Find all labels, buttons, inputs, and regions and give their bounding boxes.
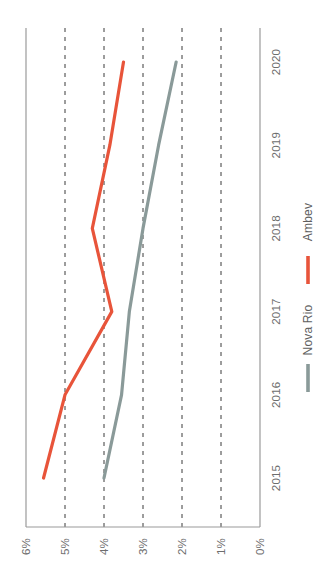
category-tick-label-2017: 2017 <box>270 298 282 324</box>
category-tick-label-2018: 2018 <box>270 215 282 241</box>
legend-label-ambev: Ambev <box>301 203 315 241</box>
category-axis-tick-labels: 201520162017201820192020 <box>270 49 282 491</box>
value-tick-label: 1% <box>215 538 227 555</box>
value-tick-label: 5% <box>59 538 71 555</box>
category-tick-label-2015: 2015 <box>270 465 282 491</box>
value-tick-label: 0% <box>254 538 266 555</box>
value-tick-label: 6% <box>20 538 32 555</box>
value-tick-label: 3% <box>137 538 149 555</box>
chart-container: 6%5%4%3%2%1%0% 201520162017201820192020 … <box>0 0 325 573</box>
category-tick-label-2019: 2019 <box>270 132 282 158</box>
value-tick-label: 4% <box>98 538 110 555</box>
line-chart: 6%5%4%3%2%1%0% 201520162017201820192020 … <box>0 0 325 573</box>
value-tick-label: 2% <box>176 538 188 555</box>
legend-label-nova-rio: Nova Rio <box>301 304 315 355</box>
category-tick-label-2016: 2016 <box>270 382 282 408</box>
category-tick-label-2020: 2020 <box>270 49 282 75</box>
value-axis-tick-labels: 6%5%4%3%2%1%0% <box>20 538 266 555</box>
chart-legend: Nova RioAmbev <box>301 203 315 392</box>
